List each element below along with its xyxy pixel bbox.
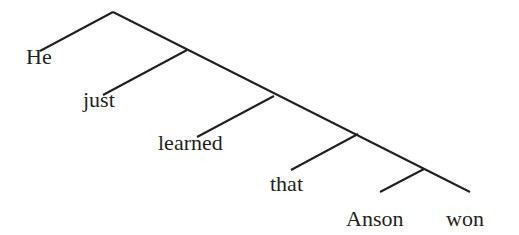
branch-spine — [113, 12, 470, 192]
branch-that — [291, 134, 358, 170]
word-won: won — [446, 208, 484, 230]
branch-just — [103, 50, 187, 95]
word-learned: learned — [158, 132, 223, 154]
tree-branches — [0, 0, 519, 235]
branch-anson — [380, 169, 424, 192]
word-anson: Anson — [346, 208, 403, 230]
word-he: He — [26, 46, 52, 68]
word-just: just — [83, 89, 115, 111]
word-that: that — [270, 173, 303, 195]
